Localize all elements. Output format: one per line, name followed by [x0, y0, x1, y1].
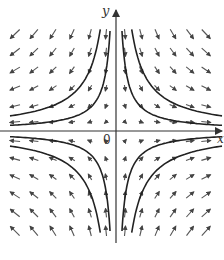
slope-arrow — [124, 85, 125, 91]
slope-arrow — [139, 157, 143, 161]
slope-arrow — [154, 104, 159, 107]
slope-arrow — [202, 226, 210, 235]
origin-label: 0 — [103, 133, 111, 147]
slope-arrow — [106, 226, 107, 236]
slope-arrow — [124, 157, 126, 162]
slope-arrow — [201, 105, 210, 108]
slope-arrow — [140, 226, 142, 236]
slope-arrow — [88, 140, 93, 142]
slope-arrow — [30, 141, 39, 142]
slope-arrow — [30, 226, 38, 235]
slope-arrow — [202, 175, 211, 180]
slope-arrow — [186, 209, 193, 217]
slope-arrow — [202, 48, 211, 56]
slope-arrow — [50, 209, 56, 217]
slope-arrow — [186, 158, 194, 161]
slope-arrow — [202, 192, 211, 198]
slope-arrow — [70, 48, 75, 56]
slope-arrow — [70, 29, 74, 39]
slope-arrow — [10, 175, 20, 179]
slope-arrow — [69, 104, 75, 107]
slope-arrow — [170, 67, 176, 74]
slope-arrow — [105, 174, 106, 180]
slope-arrow — [124, 104, 126, 109]
slope-arrow — [30, 29, 38, 38]
slope-arrow — [186, 140, 194, 141]
slope-arrow — [10, 122, 20, 123]
slope-arrow — [30, 67, 38, 73]
trajectory-curve — [122, 31, 222, 125]
slope-arrow — [106, 209, 107, 218]
slope-arrow — [69, 157, 75, 161]
slope-arrow — [70, 192, 75, 199]
slope-arrow — [10, 209, 19, 217]
slope-arrow — [155, 48, 159, 56]
slope-arrow — [125, 29, 126, 39]
slope-arrow — [88, 85, 91, 91]
slope-arrow — [202, 67, 211, 73]
slope-arrow — [70, 67, 75, 74]
slope-arrow — [125, 209, 126, 218]
slope-arrow — [69, 174, 74, 179]
slope-arrow — [30, 105, 39, 108]
slope-arrow — [202, 209, 211, 217]
slope-arrow — [139, 140, 144, 142]
y-axis-label: y — [102, 3, 109, 18]
slope-arrow — [89, 209, 92, 218]
slope-arrow — [10, 48, 20, 55]
slope-arrow — [10, 86, 20, 90]
slope-arrow — [10, 226, 19, 235]
slope-arrow — [124, 121, 127, 124]
slope-arrow — [201, 158, 210, 161]
slope-arrow — [50, 48, 56, 56]
slope-arrow — [155, 209, 159, 217]
slope-arrow — [170, 48, 176, 56]
slope-arrow — [30, 192, 38, 198]
slope-arrow — [10, 158, 20, 161]
slope-arrow — [170, 192, 176, 199]
trajectory-curve — [10, 29, 100, 116]
trajectory-curve — [10, 31, 110, 125]
slope-arrow — [106, 29, 107, 39]
slope-arrow — [69, 85, 74, 90]
slope-arrow — [50, 175, 57, 180]
slope-arrow — [10, 67, 20, 73]
slope-arrow — [155, 192, 160, 199]
trajectory-curve — [10, 137, 110, 231]
slope-arrow — [50, 192, 57, 199]
slope-arrow — [201, 122, 210, 123]
slope-arrow — [139, 85, 142, 91]
slope-arrow — [88, 157, 92, 161]
slope-arrow — [186, 175, 194, 180]
slope-arrow — [139, 174, 142, 180]
slope-arrow — [10, 105, 20, 107]
slope-arrow — [170, 209, 176, 217]
trajectory-curve — [10, 146, 100, 233]
slope-arrow — [124, 140, 127, 143]
slope-arrow — [88, 121, 93, 123]
slope-arrow — [88, 174, 91, 180]
slope-arrow — [140, 29, 143, 39]
slope-arrow — [50, 86, 57, 91]
x-axis-label: x — [217, 132, 224, 146]
slope-arrow — [170, 86, 176, 91]
slope-arrow — [155, 67, 160, 74]
slope-arrow — [105, 85, 106, 91]
slope-arrow — [186, 192, 194, 198]
slope-arrow — [154, 121, 160, 122]
slope-arrow — [89, 48, 92, 56]
slope-arrow — [105, 157, 107, 162]
slope-arrow — [30, 48, 38, 56]
slope-arrow — [105, 121, 108, 124]
slope-arrow — [30, 122, 39, 123]
trajectory-curve — [132, 29, 222, 116]
slope-arrow — [50, 226, 56, 236]
slope-arrow — [69, 140, 75, 141]
slope-arrow — [30, 209, 38, 217]
slope-arrow — [202, 30, 210, 39]
slope-arrow — [186, 86, 194, 91]
slope-arrow — [50, 29, 56, 38]
slope-arrow — [105, 104, 107, 109]
slope-arrow — [30, 175, 38, 180]
slope-arrow — [10, 141, 20, 142]
